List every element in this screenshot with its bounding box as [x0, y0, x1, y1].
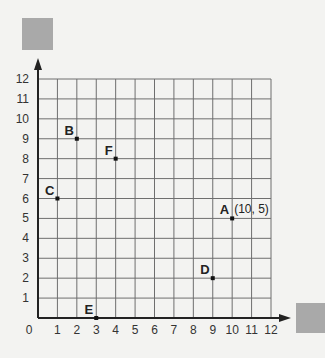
y-tick-label: 6 [22, 192, 29, 206]
y-tick-label: 5 [22, 211, 29, 225]
point-d [211, 276, 215, 280]
point-b [75, 137, 79, 141]
x-tick-label: 1 [54, 323, 61, 337]
y-tick-label: 11 [17, 92, 30, 106]
x-tick-label: 10 [225, 323, 239, 337]
point-label-b: B [64, 123, 73, 138]
x-axis-arrow-icon [279, 314, 291, 322]
y-tick-label: 7 [22, 172, 29, 186]
x-tick-label: 6 [151, 323, 158, 337]
coordinate-grid: 0123456789101112 123456789101112 A(10, 5… [0, 0, 325, 358]
x-tick-label: 7 [171, 323, 178, 337]
point-label-e: E [85, 302, 94, 317]
point-a [230, 216, 234, 220]
point-f [114, 157, 118, 161]
x-tick-label: 9 [209, 323, 216, 337]
point-label-f: F [105, 143, 113, 158]
y-tick-label: 4 [22, 231, 29, 245]
x-tick-label: 8 [190, 323, 197, 337]
y-tick-label: 3 [22, 251, 29, 265]
y-axis-arrow-icon [34, 58, 42, 70]
point-label-a: A [220, 202, 230, 217]
x-tick-label: 5 [132, 323, 139, 337]
x-tick-label: 2 [73, 323, 80, 337]
point-c [55, 197, 59, 201]
x-tick-label: 0 [26, 323, 33, 337]
point-annotation-a: (10, 5) [234, 202, 269, 216]
point-label-c: C [45, 183, 55, 198]
x-tick-label: 3 [93, 323, 100, 337]
y-tick-label: 9 [22, 132, 29, 146]
x-tick-label: 11 [245, 323, 258, 337]
x-tick-label: 12 [264, 323, 278, 337]
y-tick-label: 12 [16, 72, 30, 86]
y-tick-label: 10 [16, 112, 30, 126]
y-tick-label: 1 [22, 291, 29, 305]
y-tick-label: 2 [22, 271, 29, 285]
point-label-d: D [200, 262, 209, 277]
x-tick-label: 4 [112, 323, 119, 337]
y-tick-label: 8 [22, 152, 29, 166]
point-e [94, 316, 98, 320]
